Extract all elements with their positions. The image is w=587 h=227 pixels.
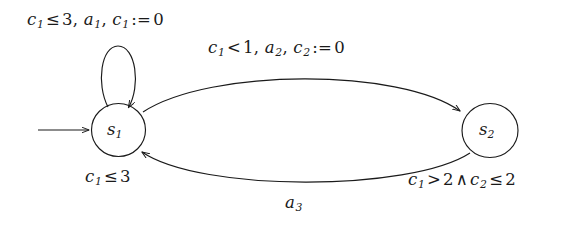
transition-edge-s1-to-s2[interactable] (143, 79, 460, 112)
s2-to-s1-guard-label: c1>2∧c2≤2 (408, 170, 516, 191)
guard-clock-a-sub: 1 (418, 178, 425, 191)
inv-bound: 3 (120, 167, 131, 186)
loop-reset-clock: c (112, 10, 121, 29)
inv-clock-sub: 1 (95, 175, 102, 188)
state-s2-sub: 2 (487, 128, 494, 141)
state-label-s1: s1 (107, 120, 122, 141)
state-label-s2: s2 (479, 120, 494, 141)
top-guard-clock-sub: 1 (218, 46, 225, 59)
loop-guard-clock: c (27, 10, 36, 29)
self-loop-transition-label: c1≤3, a1, c1:=0 (27, 10, 164, 31)
state-s1-invariant-label: c1≤3 (85, 167, 131, 188)
loop-separator-2: , (101, 10, 112, 29)
top-guard-bound: 1 (243, 38, 254, 57)
guard-bound-b: 2 (505, 170, 516, 189)
state-s1-sub: 1 (115, 128, 122, 141)
top-guard-operator: < (225, 38, 243, 57)
inv-clock: c (85, 167, 94, 186)
bottom-action: a (285, 193, 295, 212)
loop-guard-operator: ≤ (44, 10, 62, 29)
guard-clock-b: c (470, 170, 479, 189)
guard-bound-a: 2 (443, 170, 454, 189)
guard-conjunction: ∧ (454, 170, 470, 189)
timed-automaton-figure: c1≤3, a1, c1:=0 c1<1, a2, c2:=0 c1≤3 c1>… (0, 0, 587, 227)
top-separator-1: , (254, 38, 265, 57)
loop-reset-value: 0 (153, 10, 164, 29)
top-assign-operator: := (310, 38, 334, 57)
s1-to-s2-transition-label: c1<1, a2, c2:=0 (208, 38, 345, 59)
top-action: a (265, 38, 275, 57)
loop-guard-bound: 3 (62, 10, 73, 29)
top-reset-value: 0 (334, 38, 345, 57)
s2-to-s1-action-label: a3 (285, 193, 303, 214)
guard-operator-a: > (425, 170, 443, 189)
loop-guard-clock-sub: 1 (37, 18, 44, 31)
top-separator-2: , (282, 38, 293, 57)
loop-action: a (84, 10, 94, 29)
top-guard-clock: c (208, 38, 217, 57)
inv-operator: ≤ (102, 167, 120, 186)
guard-clock-a: c (408, 170, 417, 189)
top-reset-clock: c (293, 38, 302, 57)
loop-assign-operator: := (129, 10, 153, 29)
bottom-action-sub: 3 (296, 201, 303, 214)
guard-operator-b: ≤ (487, 170, 505, 189)
loop-separator-1: , (73, 10, 84, 29)
transition-edge-self-loop[interactable] (101, 46, 135, 108)
